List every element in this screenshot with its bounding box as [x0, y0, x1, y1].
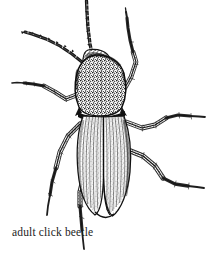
click-beetle-illustration: [0, 0, 217, 256]
figure-container: adult click beetle: [0, 0, 217, 256]
figure-caption: adult click beetle: [12, 226, 93, 239]
pronotum: [75, 55, 127, 122]
